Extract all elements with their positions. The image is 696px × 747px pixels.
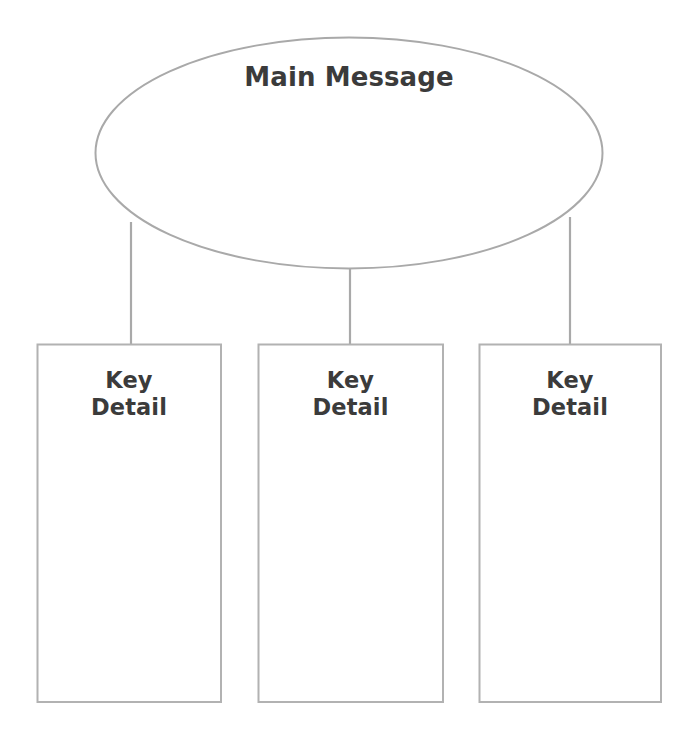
diagram-shape-layer xyxy=(0,0,696,747)
diagram-canvas: Main Message Key Detail Key Detail Key D… xyxy=(0,0,696,747)
main-message-ellipse[interactable] xyxy=(96,38,603,269)
key-detail-box-3[interactable] xyxy=(480,345,662,703)
key-detail-box-2[interactable] xyxy=(259,345,444,703)
key-detail-box-1[interactable] xyxy=(38,345,222,703)
